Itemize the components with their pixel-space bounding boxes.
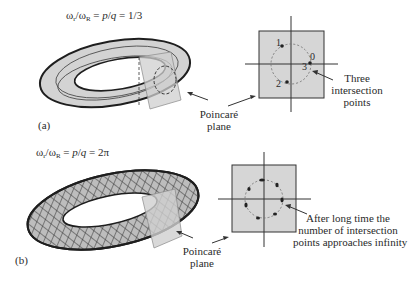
poincare-label-b: Poincaré plane [180, 245, 224, 269]
point-1-label: 1 [276, 37, 281, 48]
annotation-infinity: After long time the number of intersecti… [293, 212, 403, 248]
annotation-three-points: Three intersection points [326, 72, 388, 108]
formula-b: ωr/ωR = p/q = 2π [36, 146, 109, 160]
panel-label-b: (b) [15, 254, 28, 266]
poincare-plane-b [142, 189, 182, 248]
arrow-a-right [228, 97, 253, 106]
point-2-label: 2 [276, 78, 281, 89]
poincare-section-a [245, 16, 338, 112]
panel-label-a: (a) [38, 119, 50, 131]
point-0-label: 0 [310, 51, 315, 62]
poincare-label-a: Poincaré plane [197, 108, 241, 132]
point-3-label: 3 [302, 61, 307, 72]
formula-a: ωr/ωR = p/q = 1/3 [66, 9, 142, 23]
